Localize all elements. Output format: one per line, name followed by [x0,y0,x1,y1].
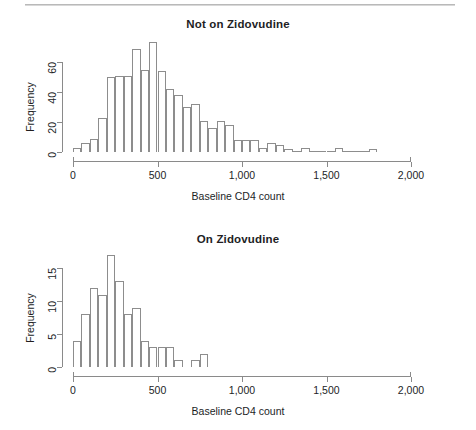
histogram-bar [124,314,132,367]
histogram-bar [81,143,89,152]
histogram-bar [225,125,233,152]
y-axis-tick-label: 20 [46,122,58,134]
x-axis-tick [73,162,74,167]
histogram-panel-on-zidovudine: On Zidovudine 051015 Frequency 05001,000… [0,215,476,430]
histogram-bar [166,89,174,152]
y-axis-line [62,268,63,367]
histogram-bar [318,151,326,152]
x-axis-tick [327,377,328,382]
x-axis-tick-label: 2,000 [398,169,424,181]
histogram-bar [174,360,182,367]
x-axis-tick-label: 500 [149,169,167,181]
histogram-bar [141,341,149,367]
histogram-bar [73,341,81,367]
histogram-bar [98,295,106,367]
y-axis-tick-label: 40 [46,92,58,104]
histogram-bars [73,40,411,152]
histogram-bar [343,151,351,152]
histogram-bar [174,95,182,152]
histogram-bar [141,70,149,152]
histogram-bar [335,148,343,152]
x-axis-tick [411,162,412,167]
y-axis-tick-label: 0 [46,152,58,158]
plot-area-1 [73,40,411,152]
x-axis-tick-label: 2,000 [398,384,424,396]
x-axis-tick-label: 0 [70,384,76,396]
histogram-bar [90,139,98,152]
y-axis-tick-label: 15 [46,268,58,280]
x-axis-tick [242,377,243,382]
x-axis-title: Baseline CD4 count [0,405,476,417]
histogram-bar [98,118,106,152]
y-axis-title: Frequency [24,293,36,343]
chart-title: Not on Zidovudine [0,18,476,30]
x-axis-tick [411,377,412,382]
histogram-bar [149,42,157,153]
histogram-bar [73,148,81,152]
histogram-bar [234,140,242,152]
histogram-bar [158,71,166,152]
histogram-bars [73,255,411,367]
x-axis-tick-label: 1,500 [313,384,339,396]
histogram-bar [115,76,123,152]
histogram-bar [191,360,199,367]
x-axis-title: Baseline CD4 count [0,190,476,202]
histogram-bar [124,76,132,152]
y-axis-tick-label: 0 [46,367,58,373]
x-axis-tick [242,162,243,167]
x-axis-tick-label: 1,000 [229,384,255,396]
x-axis-tick-label: 0 [70,169,76,181]
histogram-bar [242,140,250,152]
histogram-bar [250,140,258,152]
y-axis-tick-label: 10 [46,301,58,313]
histogram-bar [352,151,360,152]
x-axis-tick [158,162,159,167]
histogram-bar [191,104,199,152]
histogram-bar [369,149,377,152]
x-axis-tick-label: 500 [149,384,167,396]
histogram-bar [158,347,166,367]
histogram-bar [200,121,208,152]
histogram-bar [149,347,157,367]
histogram-bar [301,148,309,152]
histogram-bar [284,149,292,152]
histogram-bar [183,107,191,152]
y-axis-tick-label: 60 [46,62,58,74]
histogram-bar [217,121,225,152]
x-axis-tick [327,162,328,167]
histogram-bar [327,151,335,152]
histogram-bar [200,354,208,367]
histogram-bar [107,77,115,152]
figure-page: Not on Zidovudine 0204060 Frequency 0500… [0,0,476,430]
x-axis-tick-label: 1,500 [313,169,339,181]
histogram-bar [107,255,115,367]
x-axis-tick [73,377,74,382]
histogram-bar [293,151,301,152]
histogram-bar [90,288,98,367]
histogram-bar [166,347,174,367]
histogram-bar [115,281,123,367]
y-axis-line [62,62,63,152]
y-axis-title: Frequency [24,82,36,132]
histogram-bar [132,308,140,367]
x-axis-tick-label: 1,000 [229,169,255,181]
x-axis-tick [158,377,159,382]
histogram-bar [276,145,284,152]
chart-title: On Zidovudine [0,233,476,245]
histogram-bar [259,148,267,152]
histogram-bar [81,314,89,367]
histogram-bar [360,151,368,152]
histogram-bar [132,49,140,152]
histogram-bar [208,128,216,152]
y-axis-tick-label: 5 [46,334,58,340]
plot-area-2 [73,255,411,367]
histogram-bar [310,151,318,152]
histogram-bar [267,143,275,152]
histogram-panel-not-on-zidovudine: Not on Zidovudine 0204060 Frequency 0500… [0,0,476,215]
